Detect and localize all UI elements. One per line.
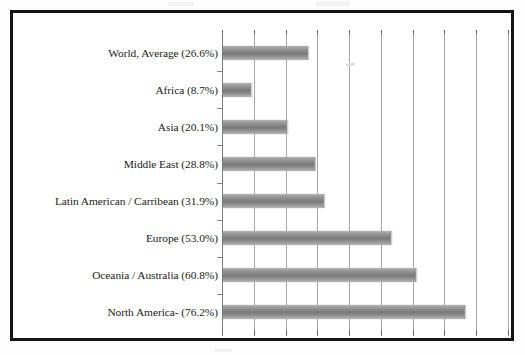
bar-row: Oceania / Australia (60.8%) — [13, 257, 517, 294]
bar-row: World, Average (26.6%) — [13, 34, 517, 71]
chart-plot-area: World, Average (26.6%)Africa (8.7%)Asia … — [13, 13, 517, 344]
bar-row: Europe (53.0%) — [13, 220, 517, 257]
bar — [223, 83, 251, 97]
bar — [223, 305, 465, 319]
category-label: Asia (20.1%) — [158, 120, 218, 133]
category-label: Europe (53.0%) — [146, 232, 218, 245]
category-label: Oceania / Australia (60.8%) — [92, 269, 218, 282]
bar-row: Africa (8.7%) — [13, 71, 517, 108]
bar — [223, 46, 308, 60]
bar-row: Latin American / Carribean (31.9%) — [13, 183, 517, 220]
axis-bottom-tick — [222, 331, 223, 336]
bar — [223, 231, 391, 245]
category-label: Africa (8.7%) — [155, 83, 218, 96]
category-label: North America- (76.2%) — [107, 306, 218, 319]
bar — [223, 268, 416, 282]
bar — [223, 157, 315, 171]
chart-frame: World, Average (26.6%)Africa (8.7%)Asia … — [10, 10, 514, 341]
scan-artifact-bottom — [214, 349, 232, 352]
category-label: Middle East (28.8%) — [124, 157, 218, 170]
category-label: Latin American / Carribean (31.9%) — [55, 195, 218, 208]
bar-row: North America- (76.2%) — [13, 294, 517, 331]
bar-row: Middle East (28.8%) — [13, 145, 517, 182]
scanned-page: World, Average (26.6%)Africa (8.7%)Asia … — [0, 0, 525, 355]
bar-row: Asia (20.1%) — [13, 108, 517, 145]
bar — [223, 194, 324, 208]
scan-artifact-top-right — [316, 1, 350, 6]
bar — [223, 120, 287, 134]
category-label: World, Average (26.6%) — [108, 46, 218, 59]
scan-artifact-top-left — [168, 2, 194, 6]
